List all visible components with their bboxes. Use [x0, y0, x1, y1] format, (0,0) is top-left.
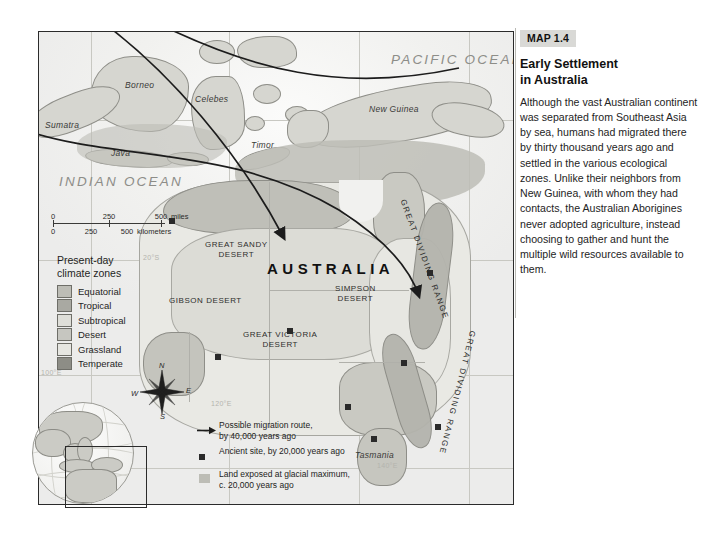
caption-title: Early Settlement in Australia: [520, 56, 698, 88]
climate-label-tropical: Tropical: [78, 300, 111, 311]
symbol-text-line1: Possible migration route,: [219, 420, 313, 430]
arrow-icon: [197, 420, 219, 439]
climate-swatch-grassland: [57, 343, 72, 356]
square-icon: [197, 446, 219, 465]
label-borneo: Borneo: [125, 80, 154, 90]
inset-locator-globe: [20, 398, 148, 508]
caption-title-line2: in Australia: [520, 72, 698, 88]
label-sumatra: Sumatra: [45, 120, 79, 130]
climate-legend-title: Present-day climate zones: [57, 254, 197, 280]
scale-bar: 0 250 500 miles 0 250 500 kilometers: [51, 212, 183, 238]
label-celebes: Celebes: [195, 94, 228, 104]
landmass-island: [245, 116, 265, 131]
label-indian-ocean: INDIAN OCEAN: [59, 174, 183, 189]
climate-legend-item-tropical: Tropical: [57, 299, 197, 312]
climate-label-equatorial: Equatorial: [78, 286, 121, 297]
label-australia: AUSTRALIA: [267, 260, 394, 277]
swatch-icon: [197, 469, 219, 488]
scale-km-unit: kilometers: [137, 227, 171, 236]
graticule-label-120e: 120°E: [211, 400, 232, 407]
state-boundary: [339, 362, 425, 363]
desert-line-1: GREAT SANDY: [205, 240, 268, 250]
landmass-island: [199, 40, 235, 64]
ancient-site-marker: [345, 404, 351, 410]
climate-zones-legend: Present-day climate zones Equatorial Tro…: [57, 254, 197, 372]
desert-line-2: DESERT: [335, 294, 376, 304]
climate-legend-title-line1: Present-day: [57, 254, 197, 267]
climate-swatch-desert: [57, 328, 72, 341]
map-number-badge: MAP 1.4: [520, 30, 576, 47]
caption-body: Although the vast Australian continent w…: [520, 95, 698, 278]
climate-legend-item-grassland: Grassland: [57, 343, 197, 356]
scale-tick: [161, 220, 162, 227]
compass-label-north: N: [159, 361, 164, 370]
climate-swatch-equatorial: [57, 285, 72, 298]
caption-divider: [515, 28, 516, 318]
glacial-exposed-land: [77, 124, 227, 168]
climate-swatch-temperate: [57, 357, 72, 370]
symbol-legend-item-migration-route: Possible migration route, by 40,000 year…: [197, 420, 457, 442]
climate-legend-item-subtropical: Subtropical: [57, 314, 197, 327]
scale-bar-line: [53, 223, 165, 224]
climate-legend-item-equatorial: Equatorial: [57, 285, 197, 298]
scale-miles-unit: miles: [171, 212, 189, 221]
caption-title-line1: Early Settlement: [520, 56, 698, 72]
climate-legend-title-line2: climate zones: [57, 267, 197, 280]
compass-label-east: E: [186, 386, 191, 395]
desert-line-2: DESERT: [243, 340, 317, 350]
label-java: Java: [111, 148, 130, 158]
landmass-philippines: [237, 36, 297, 68]
scale-km-tick-2: 500: [121, 227, 134, 236]
label-great-victoria-desert: GREAT VICTORIA DESERT: [243, 330, 317, 350]
climate-zone-tropical-north: [163, 180, 353, 234]
climate-label-grassland: Grassland: [78, 344, 121, 355]
desert-line-2: DESERT: [205, 250, 268, 260]
caption-panel: MAP 1.4 Early Settlement in Australia Al…: [520, 28, 698, 278]
landmass-moluccas: [253, 84, 281, 104]
symbol-legend-text-migration: Possible migration route, by 40,000 year…: [219, 420, 313, 442]
inset-extent-box: [65, 446, 147, 508]
climate-label-temperate: Temperate: [78, 358, 123, 369]
climate-label-desert: Desert: [78, 329, 106, 340]
ancient-site-marker: [215, 354, 221, 360]
symbol-legend-text-glacial: Land exposed at glacial maximum, c. 20,0…: [219, 469, 350, 491]
compass-label-south: S: [160, 412, 165, 421]
desert-line-1: GREAT VICTORIA: [243, 330, 317, 340]
scale-tick: [109, 220, 110, 227]
label-pacific-ocean: PACIFIC OCEAN: [391, 52, 514, 67]
ancient-site-marker: [401, 360, 407, 366]
climate-label-subtropical: Subtropical: [78, 315, 126, 326]
label-new-guinea: New Guinea: [369, 104, 419, 114]
scale-tick: [53, 220, 54, 227]
compass-label-west: W: [131, 389, 138, 398]
label-simpson-desert: SIMPSON DESERT: [335, 284, 376, 304]
climate-legend-item-desert: Desert: [57, 328, 197, 341]
symbol-legend: Possible migration route, by 40,000 year…: [197, 420, 457, 495]
symbol-text-line1: Land exposed at glacial maximum,: [219, 469, 350, 479]
symbol-legend-item-ancient-site: Ancient site, by 20,000 years ago: [197, 446, 457, 465]
label-great-sandy-desert: GREAT SANDY DESERT: [205, 240, 268, 260]
scale-km-tick-0: 0: [51, 227, 55, 236]
symbol-legend-text-ancient-site: Ancient site, by 20,000 years ago: [219, 446, 345, 457]
desert-line-1: SIMPSON: [335, 284, 376, 294]
symbol-legend-item-glacial-land: Land exposed at glacial maximum, c. 20,0…: [197, 469, 457, 491]
climate-swatch-subtropical: [57, 314, 72, 327]
scale-km-tick-1: 250: [85, 227, 98, 236]
symbol-text-line2: c. 20,000 years ago: [219, 480, 294, 490]
state-boundary: [269, 182, 270, 428]
climate-swatch-tropical: [57, 299, 72, 312]
symbol-text-line2: by 40,000 years ago: [219, 431, 296, 441]
label-timor: Timor: [251, 140, 274, 150]
